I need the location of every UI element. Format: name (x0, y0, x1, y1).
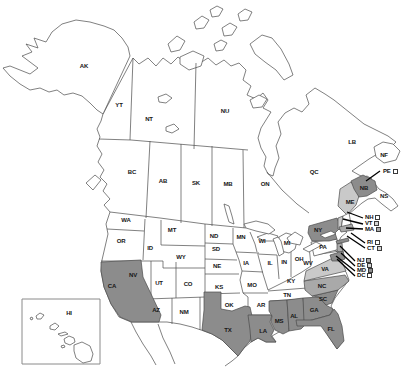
north-america-map-figure: AKYTNTNUBCABSKMBONQCLBNFNSNBMEWAORCANVID… (0, 0, 417, 377)
callout-label-MA: MA (365, 226, 374, 232)
callout-label-VT: VT (365, 220, 372, 226)
legend-square-DE (367, 263, 372, 268)
callout-DE: DE (357, 262, 372, 268)
legend-square-MD (368, 268, 373, 273)
callout-label-MD: MD (357, 267, 366, 273)
legend-square-RI (375, 240, 380, 245)
callout-label-DC: DC (357, 272, 365, 278)
callout-label-NJ: NJ (357, 257, 364, 263)
callout-PE: PE (383, 168, 398, 174)
callout-NH: NH (365, 214, 380, 220)
legend-square-NJ (366, 258, 371, 263)
callout-MD: MD (357, 267, 373, 273)
callout-label-NH: NH (365, 214, 373, 220)
callout-label-RI: RI (367, 239, 373, 245)
callout-MA: MA (365, 226, 381, 232)
legend-square-NH (375, 215, 380, 220)
legend-square-CT (377, 246, 382, 251)
callout-layer: PENHVTMARICTNJDEMDDC (0, 0, 417, 377)
callout-RI: RI (367, 239, 380, 245)
callout-NJ: NJ (357, 257, 371, 263)
legend-square-MA (376, 227, 381, 232)
legend-square-VT (374, 221, 379, 226)
callout-label-PE: PE (383, 168, 391, 174)
callout-VT: VT (365, 220, 379, 226)
callout-DC: DC (357, 272, 372, 278)
callout-CT: CT (367, 245, 382, 251)
callout-label-CT: CT (367, 245, 375, 251)
legend-square-PE (393, 169, 398, 174)
legend-square-DC (367, 273, 372, 278)
callout-label-DE: DE (357, 262, 365, 268)
